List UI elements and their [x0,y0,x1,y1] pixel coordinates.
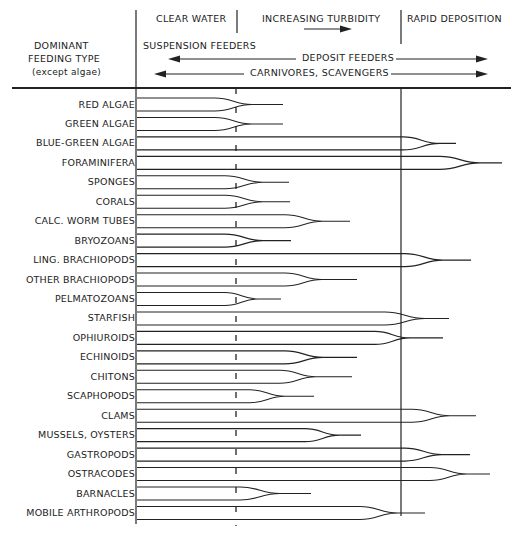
organism-band [137,370,352,383]
organism-band [137,176,289,189]
organism-label: BARNACLES [76,488,135,499]
organism-label: GASTROPODS [67,449,135,460]
organism-label: OSTRACODES [68,468,135,479]
organism-band [137,312,449,325]
organism-band [137,429,361,442]
organism-band [137,409,476,422]
organism-label: LING. BRACHIOPODS [33,254,135,265]
organism-label: MUSSELS, OYSTERS [38,429,135,440]
organism-label: GREEN ALGAE [65,118,135,129]
organism-label: SCAPHOPODS [67,390,135,401]
organism-band [137,390,314,403]
organism-label: STARFISH [88,312,135,323]
organism-label: CORALS [96,196,135,207]
organism-band [137,468,490,481]
organism-label: CALC. WORM TUBES [35,215,135,226]
organism-band [137,98,283,111]
organism-label: CLAMS [101,410,135,421]
organism-label: FORAMINIFERA [62,157,135,168]
organism-band [137,331,443,344]
organism-band [137,234,291,247]
carnivores-scavengers-label: CARNIVORES, SCAVENGERS [248,67,391,78]
organism-label: OPHIUROIDS [73,332,135,343]
organism-band [137,215,350,228]
organism-band [137,273,357,286]
organism-label: ECHINOIDS [80,351,135,362]
organism-label: BRYOZOANS [74,235,135,246]
organism-bands [137,98,502,519]
organism-band [137,254,471,267]
organism-label: BLUE-GREEN ALGAE [36,137,135,148]
organism-band [137,156,502,169]
organism-band [137,117,283,130]
organism-band [137,351,357,364]
organism-band [137,137,456,150]
organism-band [137,487,311,500]
organism-label: RED ALGAE [79,99,135,110]
organism-label: MOBILE ARTHROPODS [26,507,135,518]
organism-band [137,448,470,461]
organism-band [137,293,281,306]
organism-label: PELMATOZOANS [55,293,135,304]
deposit-feeders-label: DEPOSIT FEEDERS [300,52,396,63]
organism-band [137,195,290,208]
organism-label: OTHER BRACHIOPODS [26,274,135,285]
organism-label: CHITONS [91,371,135,382]
organism-band [137,506,425,519]
organism-label: SPONGES [88,176,135,187]
